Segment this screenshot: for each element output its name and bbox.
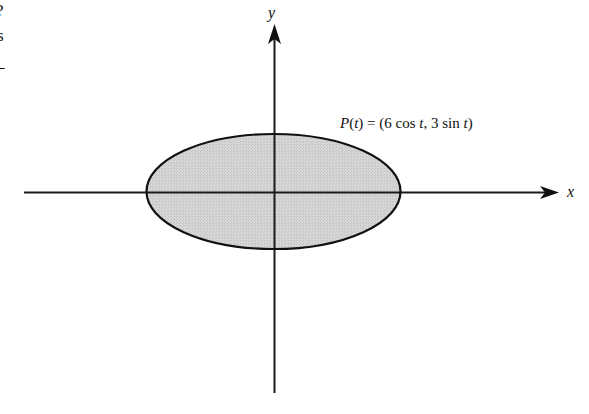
label-mid2: , 3 sin bbox=[423, 115, 463, 131]
label-mid1: ) = (6 cos bbox=[358, 115, 419, 131]
x-axis-label: x bbox=[567, 184, 574, 200]
label-P: P bbox=[340, 115, 349, 131]
parametric-equation-label: P(t) = (6 cos t, 3 sin t) bbox=[340, 116, 473, 131]
label-close: ) bbox=[468, 115, 473, 131]
y-axis-label: y bbox=[268, 5, 275, 21]
parametric-ellipse-diagram bbox=[0, 0, 589, 414]
